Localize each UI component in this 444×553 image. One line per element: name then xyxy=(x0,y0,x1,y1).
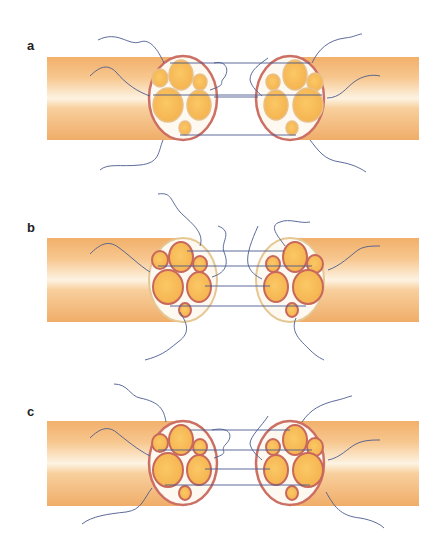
cross-section-right xyxy=(256,421,324,505)
nerve-repair-diagram xyxy=(0,0,444,553)
panel-a xyxy=(47,34,419,172)
panel-b xyxy=(47,194,419,360)
cross-section-right xyxy=(256,56,324,140)
cross-section-left xyxy=(149,56,217,140)
panel-c xyxy=(47,384,419,528)
cross-section-left xyxy=(149,421,217,505)
